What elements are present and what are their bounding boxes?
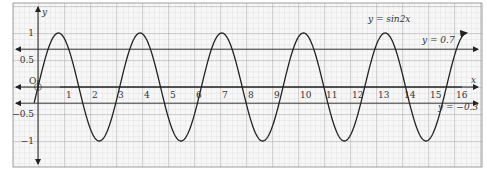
x-tick-label: 2 bbox=[92, 90, 98, 100]
annotation-label: y = sin2x bbox=[367, 14, 410, 24]
x-tick-label: 12 bbox=[352, 90, 363, 100]
x-tick-label: 7 bbox=[222, 90, 228, 100]
y-tick-label: 0.5 bbox=[20, 55, 35, 65]
x-tick-label: 11 bbox=[326, 90, 337, 100]
x-tick-label: 10 bbox=[300, 90, 312, 100]
x-tick-label: 3 bbox=[118, 90, 124, 100]
x-tick-label: 9 bbox=[274, 90, 280, 100]
x-tick-label: 4 bbox=[144, 90, 150, 100]
origin-label: O bbox=[29, 76, 36, 86]
x-tick-label: 14 bbox=[404, 90, 416, 100]
annotation-label: y = 0.7 bbox=[421, 35, 455, 45]
x-tick-label: 8 bbox=[248, 90, 254, 100]
x-tick-label: 16 bbox=[456, 90, 468, 100]
x-tick-label: 13 bbox=[378, 90, 390, 100]
x-axis-label: x bbox=[471, 75, 476, 85]
y-tick-label: 1 bbox=[28, 28, 34, 38]
grid-paper bbox=[13, 3, 482, 167]
x-tick-label: 6 bbox=[196, 90, 202, 100]
annotation-label: y = −0.3 bbox=[437, 102, 478, 112]
x-tick-label: 5 bbox=[170, 90, 176, 100]
y-tick-label: −0.5 bbox=[12, 109, 34, 119]
sine-graph: yxO 1234567891011121314151610.5−0.5−1 y … bbox=[0, 0, 487, 174]
y-tick-label: −1 bbox=[21, 136, 34, 146]
y-axis-label: y bbox=[41, 7, 48, 17]
x-tick-label: 1 bbox=[66, 90, 72, 100]
x-tick-label: 15 bbox=[430, 90, 442, 100]
